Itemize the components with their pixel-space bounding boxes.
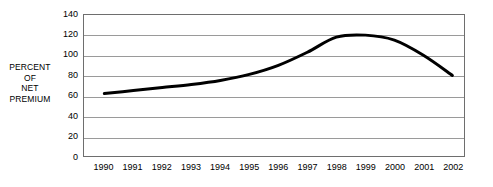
y-tick-label: 40 (52, 112, 78, 121)
x-tick-label: 1998 (322, 163, 352, 172)
y-axis-title: PERCENT OF NET PREMIUM (0, 62, 60, 104)
x-tick-label: 2001 (409, 163, 439, 172)
x-tick-label: 1993 (176, 163, 206, 172)
x-tick-label: 1997 (293, 163, 323, 172)
x-tick-label: 2000 (380, 163, 410, 172)
x-tick-label: 1994 (205, 163, 235, 172)
y-axis-title-line-1: PERCENT (0, 62, 60, 73)
y-tick-label: 140 (52, 10, 78, 19)
y-axis-title-line-2: OF (0, 73, 60, 84)
x-tick-label: 1990 (88, 163, 118, 172)
y-axis-title-line-3: NET (0, 83, 60, 94)
y-tick-label: 100 (52, 50, 78, 59)
series-path (104, 35, 452, 94)
x-tick-label: 1999 (351, 163, 381, 172)
y-tick-label: 0 (52, 153, 78, 162)
data-series-line (84, 15, 464, 156)
y-tick-label: 60 (52, 91, 78, 100)
x-tick-label: 1992 (147, 163, 177, 172)
y-tick-label: 80 (52, 71, 78, 80)
x-tick-label: 1991 (118, 163, 148, 172)
plot-area (83, 14, 465, 157)
y-axis-title-line-4: PREMIUM (0, 94, 60, 105)
x-tick-label: 2002 (438, 163, 468, 172)
y-tick-label: 120 (52, 30, 78, 39)
x-tick-label: 1995 (234, 163, 264, 172)
y-tick-label: 20 (52, 132, 78, 141)
x-tick-label: 1996 (263, 163, 293, 172)
line-chart: PERCENT OF NET PREMIUM 0 20 40 60 80 100… (0, 0, 493, 187)
